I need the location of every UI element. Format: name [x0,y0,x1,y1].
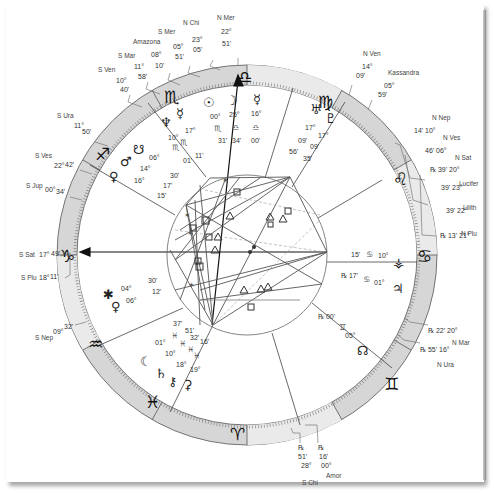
svg-text:06°: 06° [149,154,160,161]
svg-text:16': 16' [319,453,328,460]
aquarius-icon: ♒ [88,334,103,354]
svg-text:N Ura: N Ura [437,361,454,368]
svg-text:S Sat: S Sat [19,251,35,258]
svg-text:42': 42' [65,161,74,168]
svg-text:♊: ♊ [339,323,346,332]
svg-text:11°: 11° [134,63,144,70]
svg-text:34': 34' [56,188,65,195]
svg-text:51': 51' [298,453,307,460]
svg-text:05°: 05° [173,43,184,50]
svg-text:16°: 16° [134,177,145,184]
svg-text:℞ 13' 21°: ℞ 13' 21° [440,232,470,239]
svg-text:22°: 22° [221,28,232,35]
svg-text:01°: 01° [374,279,385,286]
svg-text:18°: 18° [39,274,50,281]
svg-text:14' 10°: 14' 10° [414,127,436,134]
scorpio-icon: ♏ [164,87,179,107]
uranus-icon: ♅ [310,102,322,117]
svg-text:S Ven: S Ven [98,66,116,73]
sextile-icon: ✶ [184,211,191,220]
svg-text:S Nep: S Nep [35,334,53,342]
svg-text:01°: 01° [155,339,166,346]
svg-text:N Mar: N Mar [452,339,471,346]
moon-icon: ☾ [140,354,152,369]
svg-text:17': 17' [163,182,172,189]
svg-text:S Mar: S Mar [118,52,136,59]
svg-text:S Mer: S Mer [158,28,176,35]
svg-text:08°: 08° [151,51,162,58]
svg-text:51': 51' [222,40,231,47]
svg-text:14°: 14° [362,63,373,70]
svg-text:19°: 19° [190,366,201,373]
svg-text:23°: 23° [192,36,203,43]
svg-text:37': 37' [173,320,182,327]
sun-icon: ☉ [203,95,215,110]
svg-text:℞: ℞ [298,444,304,451]
svg-text:50': 50' [82,128,91,135]
svg-text:10°: 10° [168,134,179,141]
svg-text:06°: 06° [126,297,137,304]
svg-text:09°: 09° [53,328,64,335]
svg-text:17°: 17° [305,124,316,131]
svg-text:51': 51' [185,327,194,334]
mars-icon: ♂ [120,154,132,169]
svg-text:℞: ℞ [318,444,324,451]
svg-text:59': 59' [378,91,387,98]
svg-text:00': 00' [251,137,260,144]
svg-text:Amor: Amor [326,472,342,479]
center-dot [252,245,256,249]
svg-text:17°: 17° [318,132,329,139]
capricorn-icon: ♑ [60,246,75,266]
svg-text:35': 35' [303,155,312,162]
svg-text:♓: ♓ [179,339,186,348]
leo-icon: ♌ [393,169,408,189]
svg-text:10°: 10° [165,350,176,357]
svg-text:S Chi: S Chi [302,479,318,486]
svg-text:16': 16' [200,338,209,345]
svg-text:10°: 10° [378,252,389,259]
svg-text:49': 49' [51,250,60,257]
juno-icon: ⚳ [183,377,193,392]
aries-icon: ♈ [230,424,245,444]
svg-text:12': 12' [152,288,161,295]
venus-icon: ♀ [109,169,119,184]
svg-text:♋: ♋ [363,275,370,284]
mercury-retro-icon: ☿ [176,106,184,121]
svg-text:N Ves: N Ves [443,134,461,141]
svg-text:04°: 04° [121,285,132,292]
svg-text:♏: ♏ [172,143,180,152]
svg-text:N Mer: N Mer [217,14,236,21]
svg-text:S Ura: S Ura [57,112,74,119]
pluto-icon: ♇ [325,111,337,126]
svg-text:25°: 25° [229,111,240,118]
pisces-icon: ♓ [145,392,160,412]
svg-text:39' 22°: 39' 22° [446,207,468,214]
svg-text:15': 15' [351,251,360,258]
svg-text:17°: 17° [39,251,50,258]
gemini-icon: ♊ [384,374,399,394]
svg-text:51': 51' [175,53,184,60]
svg-text:♎: ♎ [252,123,259,132]
svg-text:10°: 10° [116,77,127,84]
jupiter-icon: ♃ [392,281,404,296]
svg-text:09': 09' [310,143,319,150]
svg-text:40': 40' [120,86,129,93]
sextile-icon: ✶ [188,281,195,290]
svg-text:♏: ♏ [214,124,222,133]
svg-text:♓: ♓ [193,351,200,360]
svg-text:℞ 00': ℞ 00' [318,313,335,320]
svg-text:N Chi: N Chi [183,19,199,26]
svg-text:16°: 16° [251,110,262,117]
mercury-icon: ☿ [253,92,261,107]
svg-text:10': 10' [155,62,164,69]
svg-text:♓: ♓ [171,331,178,340]
svg-text:15': 15' [157,192,166,199]
svg-text:S Jup: S Jup [26,182,43,190]
vesta-icon: ⚶ [393,255,404,270]
svg-text:Amazona: Amazona [133,38,161,45]
svg-text:N Sat: N Sat [455,154,471,161]
svg-text:56': 56' [289,148,298,155]
svg-text:N Ven: N Ven [363,50,381,57]
sextile-icon: ✶ [187,229,194,238]
svg-text:00°: 00° [45,186,56,193]
